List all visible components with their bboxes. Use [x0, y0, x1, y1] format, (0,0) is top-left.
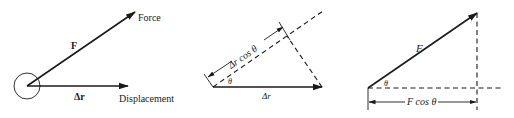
dimension-arrow-right	[264, 27, 283, 40]
panel-displacement-projection: Δr cos θ θ Δr	[204, 11, 323, 101]
panel-force-displacement: F Force Δr Displacement	[14, 12, 174, 104]
displacement-label: Δr	[261, 91, 271, 101]
force-direction-dashed-line	[213, 11, 323, 87]
work-diagram: F Force Δr Displacement Δr cos θ θ Δr	[0, 0, 514, 118]
panel-force-projection: F θ F cos θ	[368, 13, 504, 110]
angle-label: θ	[384, 79, 388, 88]
projection-label: F cos θ	[406, 96, 436, 107]
displacement-vector-label: Δr	[74, 91, 85, 102]
angle-label: θ	[228, 77, 232, 86]
extension-line-start	[204, 74, 213, 87]
perpendicular-dashed-line	[287, 36, 322, 87]
force-arrow	[27, 12, 135, 86]
force-vector-label: F	[71, 40, 77, 51]
force-label: Force	[138, 12, 161, 23]
displacement-label: Displacement	[119, 93, 174, 104]
force-label: F	[415, 42, 423, 54]
